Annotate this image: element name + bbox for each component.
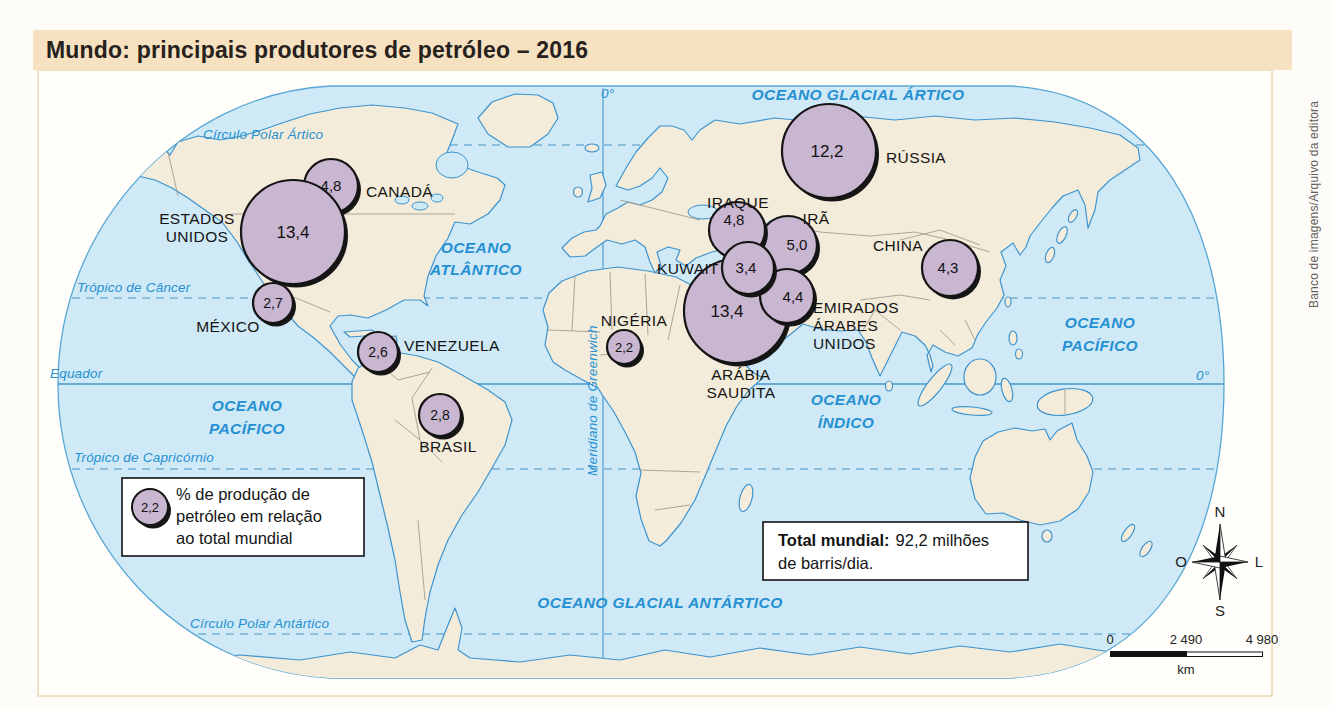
total-box: Total mundial:92,2 milhões de barris/dia… <box>763 522 1028 580</box>
compass-s-label: S <box>1215 602 1225 619</box>
producer-ira-value: 5,0 <box>787 236 808 253</box>
producer-estados-unidos-label: ESTADOS <box>159 210 235 227</box>
hudson-bay <box>436 152 468 178</box>
ocean-indian-label: OCEANO <box>811 391 881 408</box>
producer-ira-label: IRÃ <box>802 210 829 227</box>
world-map-svg: Círculo Polar Ártico Trópico de Câncer E… <box>0 0 1334 710</box>
producer-emirados-value: 4,4 <box>783 288 804 305</box>
compass-n-label: N <box>1215 503 1226 520</box>
producer-arabia-saudita-label: SAUDITA <box>707 384 776 401</box>
ocean-pacific-west-label: OCEANO <box>212 397 282 414</box>
ocean-pacific-east-label: OCEANO <box>1065 314 1135 331</box>
iceland <box>585 144 599 152</box>
map-title-bar: Mundo: principais produtores de petróleo… <box>33 30 1292 70</box>
ocean-atlantic-label: ATLÂNTICO <box>429 261 522 278</box>
producer-canada-label: CANADÁ <box>366 183 433 200</box>
scale-tick-2490: 2 490 <box>1170 632 1203 647</box>
producer-arabia-saudita-label: ARÁBIA <box>711 366 771 383</box>
borneo <box>964 359 996 395</box>
legend: 2,2 % de produção de petróleo em relação… <box>122 478 364 556</box>
producer-nigeria-value: 2,2 <box>615 340 633 355</box>
scale-tick-4980: 4 980 <box>1246 632 1279 647</box>
producer-kuwait-value: 3,4 <box>736 259 757 276</box>
producer-mexico-label: MÉXICO <box>196 318 260 335</box>
taiwan <box>1005 297 1011 307</box>
producer-emirados-label: EMIRADOS <box>813 299 899 316</box>
ireland <box>574 187 583 197</box>
producer-emirados-label: ÁRABES <box>813 317 878 334</box>
page: Círculo Polar Ártico Trópico de Câncer E… <box>0 0 1334 710</box>
tropic-cancer-label: Trópico de Câncer <box>77 280 191 295</box>
prime-meridian-top-label: 0° <box>601 86 615 101</box>
map-title: Mundo: principais produtores de petróleo… <box>33 37 588 64</box>
antarctic-circle-label: Círculo Polar Antártico <box>190 616 329 631</box>
tasmania <box>1042 530 1052 542</box>
scale-tick-0: 0 <box>1106 632 1113 647</box>
ocean-pacific-west-label: PACÍFICO <box>209 420 285 437</box>
compass-o-label: O <box>1175 553 1187 570</box>
producer-venezuela-label: VENEZUELA <box>404 337 500 354</box>
producer-estados-unidos-label: UNIDOS <box>166 228 229 245</box>
legend-text: ao total mundial <box>176 529 293 547</box>
total-line1: Total mundial:92,2 milhões <box>778 531 989 549</box>
total-value: 92,2 milhões <box>896 531 990 549</box>
producer-russia-label: RÚSSIA <box>886 149 946 166</box>
scale-bar-white-segment <box>1187 652 1263 657</box>
scale-bar-black-segment <box>1110 651 1187 657</box>
arctic-circle-label: Círculo Polar Ártico <box>203 127 324 142</box>
producer-china-label: CHINA <box>873 237 923 254</box>
sri-lanka <box>886 381 893 391</box>
ocean-arctic-label: OCEANO GLACIAL ÁRTICO <box>752 86 965 103</box>
producer-china-value: 4,3 <box>938 259 959 276</box>
producer-kuwait-label: KUWAIT <box>657 260 719 277</box>
producer-emirados-label: UNIDOS <box>813 335 876 352</box>
ocean-antarctic-label: OCEANO GLACIAL ANTÁRTICO <box>537 594 782 611</box>
producer-iraque-value: 4,8 <box>724 211 745 228</box>
tropic-capricorn-label: Trópico de Capricórnio <box>74 450 214 465</box>
ocean-atlantic-label: OCEANO <box>441 239 511 256</box>
compass-l-label: L <box>1255 553 1263 570</box>
greenwich-label: Meridiano de Greenwich <box>585 325 600 476</box>
total-label: Total mundial: <box>778 531 890 549</box>
producer-venezuela-value: 2,6 <box>368 344 388 360</box>
ocean-pacific-east-label: PACÍFICO <box>1062 337 1138 354</box>
equator-label: Equador <box>50 366 103 381</box>
producer-estados-unidos-value: 13,4 <box>276 223 309 242</box>
legend-text: petróleo em relação <box>176 507 322 525</box>
australia <box>970 423 1093 525</box>
legend-text: % de produção de <box>176 485 310 503</box>
philippines-island <box>1016 349 1023 359</box>
legend-sample-value: 2,2 <box>141 500 159 515</box>
credit-text: Banco de imagens/Arquivo da editora <box>1307 101 1321 308</box>
producer-brasil-value: 2,8 <box>430 407 450 423</box>
great-lake <box>412 202 428 210</box>
scale-unit-label: km <box>1177 662 1194 677</box>
producer-arabia-saudita-value: 13,4 <box>710 302 743 321</box>
ocean-indian-label: ÍNDICO <box>818 414 875 431</box>
producer-russia-value: 12,2 <box>810 142 843 161</box>
producer-brasil-label: BRASIL <box>419 438 477 455</box>
producer-mexico-value: 2,7 <box>263 295 283 311</box>
philippines-island <box>1009 331 1017 345</box>
producer-nigeria-label: NIGÉRIA <box>601 312 668 329</box>
total-line2: de barris/dia. <box>778 554 873 572</box>
equator-right-label: 0° <box>1196 368 1210 383</box>
producer-iraque-label: IRAQUE <box>707 194 769 211</box>
